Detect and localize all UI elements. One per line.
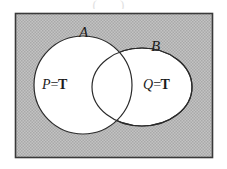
proposition-variable-q: Q [143, 77, 153, 92]
set-b-proposition-label: Q=T [143, 78, 170, 92]
proposition-variable-p: P [42, 77, 51, 92]
proposition-operator-p: = [51, 77, 58, 92]
set-b-label: B [151, 39, 160, 54]
venn-diagram-canvas [0, 0, 227, 169]
venn-diagram-figure: ( ) A B P=T Q=T [0, 0, 227, 169]
proposition-value-q: T [161, 77, 170, 92]
proposition-value-p: T [58, 77, 67, 92]
set-a-label: A [79, 25, 88, 40]
proposition-operator-q: = [153, 77, 160, 92]
set-a-proposition-label: P=T [42, 78, 67, 92]
